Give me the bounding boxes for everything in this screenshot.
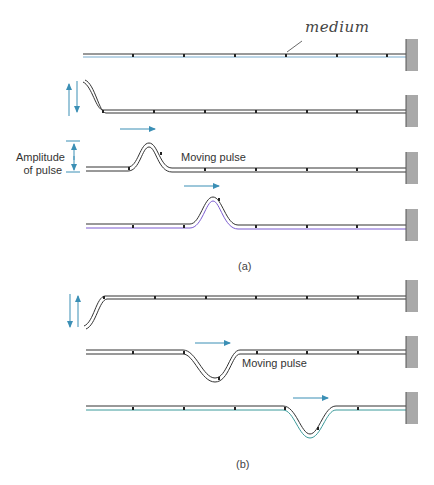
- string-a1: [83, 39, 418, 71]
- amplitude-label-line2: of pulse: [16, 164, 62, 177]
- caption-a: (a): [238, 260, 251, 272]
- string-a4: [86, 186, 418, 241]
- string-b3: [86, 392, 418, 438]
- wall-anchor: [406, 39, 418, 71]
- medium-label: medium: [305, 18, 369, 36]
- moving-pulse-label-a: Moving pulse: [181, 151, 246, 163]
- amplitude-label-line1: Amplitude: [16, 151, 62, 164]
- string-a2: [69, 80, 418, 127]
- moving-pulse-label-b: Moving pulse: [242, 357, 307, 369]
- string-b1: [70, 280, 418, 329]
- caption-b: (b): [236, 458, 249, 470]
- amplitude-label: Amplitude of pulse: [16, 151, 62, 177]
- pulse-diagram: [0, 0, 434, 485]
